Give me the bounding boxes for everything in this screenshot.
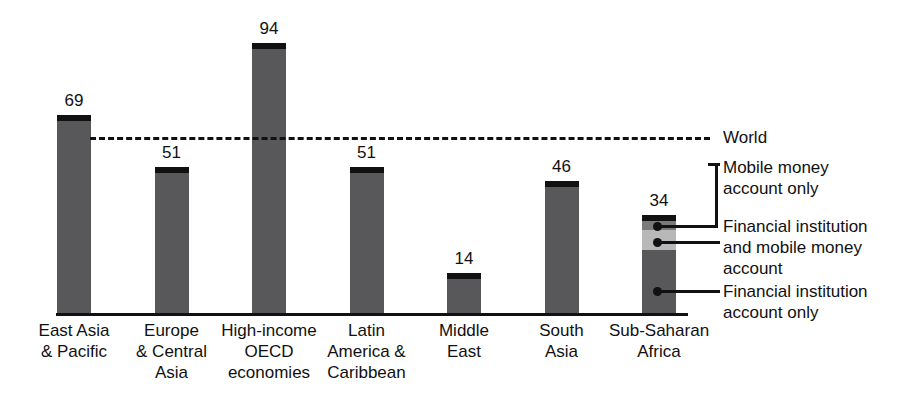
category-label: High-income OECD economies	[217, 320, 321, 383]
bar	[545, 181, 579, 313]
bar-segment-financial-institution-account-only	[545, 187, 579, 313]
bar-value-label: 51	[155, 143, 189, 162]
bar	[155, 167, 189, 313]
bar-group: 46	[545, 181, 579, 313]
bar-group: 69	[57, 115, 91, 313]
bar-top-cap	[252, 43, 286, 49]
bar-group: 51	[350, 167, 384, 313]
bar-top-cap	[642, 215, 676, 221]
callout-line-fi-and-mobile	[658, 241, 720, 244]
bar	[350, 167, 384, 313]
bar	[447, 273, 481, 313]
bar-top-cap	[155, 167, 189, 173]
callout-line-fi-only	[658, 290, 720, 293]
category-label: South Asia	[510, 320, 614, 362]
category-label: Europe & Central Asia	[120, 320, 224, 383]
bar-value-label: 34	[642, 191, 676, 210]
bar-group: 94	[252, 43, 286, 313]
callout-line-mobile-money-only-horizontal	[658, 225, 718, 228]
bar-segment-financial-institution-account-only	[642, 250, 676, 313]
legend-label-fi-and-mobile: Financial institution and mobile money a…	[723, 216, 868, 279]
legend-label-world: World	[723, 127, 767, 148]
bar-value-label: 69	[57, 91, 91, 110]
x-axis-line	[56, 313, 688, 316]
bar-top-cap	[57, 115, 91, 121]
bar-value-label: 51	[350, 143, 384, 162]
bar-segment-financial-institution-account-only	[447, 273, 481, 313]
bar	[252, 43, 286, 313]
category-label: Latin America & Caribbean	[315, 320, 419, 383]
bar-chart: 69519451144634 East Asia & PacificEurope…	[0, 0, 908, 399]
bar-segment-financial-institution-account-only	[57, 118, 91, 313]
bar-group: 51	[155, 167, 189, 313]
bar-top-cap	[545, 181, 579, 187]
category-label: East Asia & Pacific	[22, 320, 126, 362]
bar-segment-financial-institution-account-only	[252, 43, 286, 313]
legend-label-fi-only: Financial institution account only	[723, 281, 868, 323]
bar-top-cap	[350, 167, 384, 173]
callout-line-mobile-money-only-vertical	[715, 163, 718, 228]
world-reference-line	[90, 137, 710, 140]
category-label: Middle East	[412, 320, 516, 362]
bar-value-label: 94	[252, 19, 286, 38]
bar-value-label: 14	[447, 249, 481, 268]
bar-segment-financial-institution-account-only	[155, 167, 189, 313]
legend-label-mobile-money-only: Mobile money account only	[723, 157, 829, 199]
bar-top-cap	[447, 273, 481, 279]
bar-segment-financial-institution-account-only	[350, 167, 384, 313]
callout-line-mobile-money-only-tip	[708, 163, 720, 166]
callout-line-fi-only-vertical	[717, 291, 720, 293]
bar	[57, 115, 91, 313]
bar-value-label: 46	[545, 157, 579, 176]
category-label: Sub-Saharan Africa	[607, 320, 711, 362]
plot-area: 69519451144634 East Asia & PacificEurope…	[0, 0, 908, 399]
bar-group: 14	[447, 273, 481, 313]
